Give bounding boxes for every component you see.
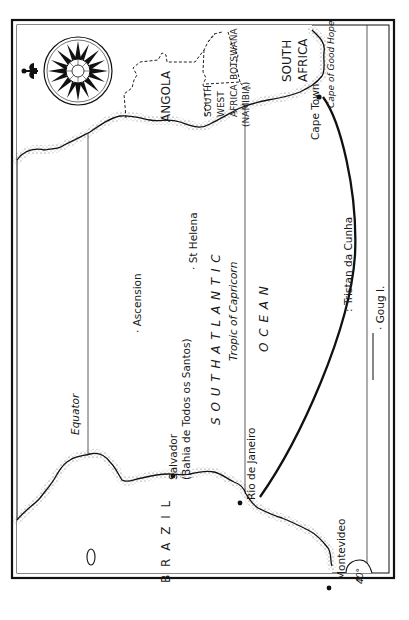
ocean-label: O C E A N: [258, 285, 270, 352]
botswana-label: BOTSWANA: [230, 28, 239, 80]
south-africa-label-1: SOUTH: [281, 40, 293, 82]
montevideo-label: Montevideo: [336, 519, 347, 580]
gough-island-label: · Goug I.: [375, 286, 386, 330]
salvador-label: Salvador: [168, 434, 179, 480]
salvador-alt-label: (Bahia de Todos os Santos): [181, 338, 192, 480]
cape-town-label: Cape Town: [310, 83, 321, 140]
south-west-label-3: AFRICA: [230, 84, 239, 117]
south-west-label-1: SOUTH: [204, 85, 213, 117]
forty-degree-label: 40°: [356, 568, 365, 584]
map-figure: Equator Tropic of Capricorn 40° ANGOLA B…: [0, 0, 409, 620]
tristan-da-cunha-label: : Tristan da Cunha: [343, 217, 354, 312]
tropic-label: Tropic of Capricorn: [228, 262, 239, 361]
equator-label: Equator: [70, 394, 81, 435]
south-africa-label-2: AFRICA: [297, 38, 309, 82]
montevideo-dot: [327, 586, 332, 591]
compass-rose: [44, 37, 112, 105]
rio-de-janeiro-label: Rio de Janeiro: [246, 427, 257, 500]
rio-dot: [238, 501, 243, 506]
south-atlantic-label: S O U T H A T L A N T I C: [210, 253, 222, 425]
cape-of-good-hope-label: Cape of Good Hope: [327, 20, 336, 108]
south-west-label-2: WEST: [217, 91, 226, 117]
angola-label: ANGOLA: [160, 71, 172, 122]
namibia-label: (NAMIBIA): [242, 82, 251, 127]
st-helena-label: · St Helena: [188, 212, 199, 270]
ascension-label: · Ascension: [132, 273, 143, 333]
brazil-label: B R A Z I L: [160, 499, 172, 583]
